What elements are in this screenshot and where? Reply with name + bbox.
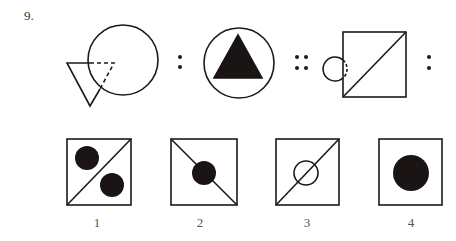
separator-colon-1: [178, 55, 182, 69]
figure-b-circle-filled-triangle: [204, 28, 274, 98]
option-3-figure[interactable]: [276, 139, 339, 205]
option-2-figure[interactable]: [171, 139, 237, 205]
separator-colon-2: [427, 55, 431, 70]
analogy-diagram: [0, 0, 456, 241]
figure-c-square-diagonal-circle: [323, 32, 406, 97]
figure-a-circle-triangle: [67, 25, 158, 106]
option-4-label[interactable]: 4: [401, 215, 421, 231]
separator-double-colon: [295, 55, 308, 70]
option-1-figure[interactable]: [67, 139, 131, 205]
option-1-label[interactable]: 1: [87, 215, 107, 231]
option-3-label[interactable]: 3: [297, 215, 317, 231]
option-4-figure[interactable]: [379, 139, 442, 205]
option-2-label[interactable]: 2: [190, 215, 210, 231]
